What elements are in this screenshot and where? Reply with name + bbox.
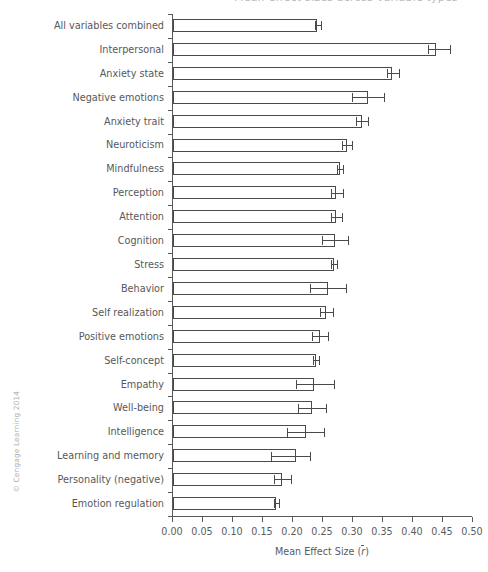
error-bar-cap-high xyxy=(291,475,292,484)
y-axis-tick xyxy=(168,492,173,493)
error-bar-cap-low xyxy=(352,93,353,102)
x-axis-tick-label: 0.05 xyxy=(191,526,212,537)
error-bar-line xyxy=(352,97,384,98)
x-axis-tick xyxy=(322,517,323,522)
chart-figure: Mean effect sizes across variable types … xyxy=(0,0,488,572)
chart-row: Intelligence xyxy=(173,420,472,444)
error-bar-cap-high xyxy=(348,236,349,245)
error-bar-cap-high xyxy=(343,165,344,174)
x-axis-tick xyxy=(202,517,203,522)
y-axis-category-label: Anxiety trait xyxy=(104,116,164,127)
bar xyxy=(173,306,326,319)
x-axis-tick xyxy=(382,517,383,522)
chart-row: Learning and memory xyxy=(173,444,472,468)
y-axis-tick xyxy=(168,325,173,326)
x-axis-tick xyxy=(442,517,443,522)
error-bar-cap-low xyxy=(331,260,332,269)
x-axis-tick-label: 0.25 xyxy=(311,526,332,537)
bar xyxy=(173,401,312,414)
bar xyxy=(173,186,336,199)
y-axis-category-label: Learning and memory xyxy=(57,450,164,461)
y-axis-tick xyxy=(168,468,173,469)
y-axis-tick xyxy=(168,62,173,63)
chart-row: Self-concept xyxy=(173,349,472,373)
error-bar-line xyxy=(298,408,326,409)
error-bar-line xyxy=(287,432,324,433)
y-axis-category-label: Personality (negative) xyxy=(58,474,164,485)
x-axis-tick xyxy=(262,517,263,522)
chart-row: Negative emotions xyxy=(173,86,472,110)
chart-row: Well-being xyxy=(173,396,472,420)
y-axis-tick xyxy=(168,110,173,111)
y-axis-tick xyxy=(168,86,173,87)
x-axis-tick-label: 0.00 xyxy=(161,526,182,537)
x-axis-tick xyxy=(172,517,173,522)
error-bar-line xyxy=(342,145,353,146)
bar xyxy=(173,162,340,175)
error-bar-cap-high xyxy=(368,117,369,126)
bar xyxy=(173,378,314,391)
chart-row: Anxiety trait xyxy=(173,110,472,134)
chart-row: Stress xyxy=(173,253,472,277)
bar xyxy=(173,473,282,486)
y-axis-tick xyxy=(168,396,173,397)
x-axis-tick xyxy=(232,517,233,522)
y-axis-category-label: Interpersonal xyxy=(99,44,164,55)
y-axis-category-label: Mindfulness xyxy=(106,164,164,175)
clipped-title-sliver: Mean effect sizes across variable types xyxy=(0,0,488,6)
error-bar-cap-low xyxy=(298,404,299,413)
error-bar-cap-high xyxy=(346,284,347,293)
error-bar-cap-high xyxy=(326,404,327,413)
y-axis-tick xyxy=(168,14,173,15)
error-bar-cap-low xyxy=(310,284,311,293)
error-bar-line xyxy=(296,384,334,385)
chart-row: Interpersonal xyxy=(173,38,472,62)
error-bar-line xyxy=(356,121,368,122)
y-axis-category-label: Self-concept xyxy=(104,355,164,366)
error-bar-cap-high xyxy=(399,69,400,78)
error-bar-cap-low xyxy=(428,45,429,54)
r-bar-symbol: r xyxy=(361,546,365,557)
y-axis-category-label: Emotion regulation xyxy=(72,498,164,509)
error-bar-line xyxy=(312,336,328,337)
y-axis-category-label: Behavior xyxy=(121,283,164,294)
y-axis-tick xyxy=(168,181,173,182)
error-bar-line xyxy=(331,217,342,218)
y-axis-category-label: Stress xyxy=(134,259,164,270)
error-bar-cap-high xyxy=(324,428,325,437)
error-bar-cap-low xyxy=(274,499,275,508)
x-axis-title: Mean Effect Size (r) xyxy=(172,546,472,557)
error-bar-cap-low xyxy=(287,428,288,437)
chart-row: Personality (negative) xyxy=(173,468,472,492)
error-bar-cap-low xyxy=(337,165,338,174)
y-axis-tick xyxy=(168,253,173,254)
error-bar-cap-low xyxy=(342,141,343,150)
error-bar-cap-high xyxy=(384,93,385,102)
bar xyxy=(173,210,336,223)
chart-row: Anxiety state xyxy=(173,62,472,86)
x-axis-tick xyxy=(292,517,293,522)
error-bar-cap-high xyxy=(343,189,344,198)
x-axis-tick-label: 0.45 xyxy=(431,526,452,537)
error-bar-cap-high xyxy=(352,141,353,150)
y-axis-tick xyxy=(168,301,173,302)
chart-row: Neuroticism xyxy=(173,134,472,158)
x-axis-tick xyxy=(472,517,473,522)
error-bar-cap-low xyxy=(274,475,275,484)
error-bar-cap-high xyxy=(342,213,343,222)
y-axis-category-label: Empathy xyxy=(121,379,164,390)
chart-row: Mindfulness xyxy=(173,157,472,181)
y-axis-tick xyxy=(168,444,173,445)
error-bar-line xyxy=(310,288,346,289)
chart-row: All variables combined xyxy=(173,14,472,38)
error-bar-cap-low xyxy=(387,69,388,78)
y-axis-tick xyxy=(168,229,173,230)
y-axis-tick xyxy=(168,420,173,421)
error-bar-cap-low xyxy=(322,236,323,245)
error-bar-line xyxy=(320,312,333,313)
bar xyxy=(173,497,276,510)
x-axis-tick xyxy=(412,517,413,522)
error-bar-cap-low xyxy=(320,308,321,317)
error-bar-cap-low xyxy=(356,117,357,126)
error-bar-line xyxy=(428,49,450,50)
